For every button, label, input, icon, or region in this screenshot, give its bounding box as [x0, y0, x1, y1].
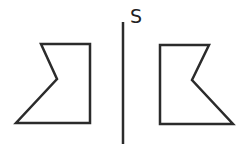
left-polygon-shape — [16, 44, 90, 123]
right-polygon-shape-reflected — [160, 45, 233, 124]
mirror-line-label: S — [130, 6, 142, 26]
symmetry-diagram — [0, 0, 244, 146]
